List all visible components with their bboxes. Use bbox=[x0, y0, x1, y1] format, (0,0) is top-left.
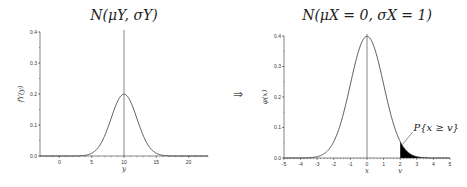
y-tick-label: 0.2 bbox=[274, 94, 281, 100]
y-axis-label: φ(x) bbox=[261, 90, 269, 105]
x-tick-label: 15 bbox=[154, 159, 160, 165]
x-tick-label: -2 bbox=[332, 161, 337, 167]
y-tick-label: 0.4 bbox=[30, 29, 37, 35]
x-tick-label: 5 bbox=[90, 159, 93, 165]
y-tick-label: 0.1 bbox=[274, 124, 281, 130]
y-axis-label: fY(y) bbox=[17, 85, 25, 103]
chart-title: N(μY, σY) bbox=[89, 7, 157, 23]
x-axis-label: x bbox=[365, 167, 369, 175]
y-tick-label: 0.3 bbox=[30, 60, 37, 66]
x-tick-label: 1 bbox=[382, 161, 385, 167]
y-tick-label: 0.2 bbox=[30, 91, 37, 97]
v-label: v bbox=[398, 167, 402, 175]
y-tick-label: 0.0 bbox=[30, 153, 37, 159]
y-tick-label: 0.0 bbox=[274, 155, 281, 161]
x-tick-label: 5 bbox=[449, 161, 452, 167]
y-tick-label: 0.4 bbox=[274, 33, 281, 39]
y-tick-label: 0.1 bbox=[30, 122, 37, 128]
figure: 0.00.10.20.30.405101520yfY(y)N(μY, σY) 0… bbox=[0, 0, 467, 187]
tail-probability-annotation: P{x ≥ v} bbox=[412, 122, 458, 133]
x-tick-label: 20 bbox=[186, 159, 192, 165]
shaded-tail bbox=[400, 142, 450, 158]
chart-right: 0.00.10.20.30.4-5-4-3-2-1012345xφ(x)N(μX… bbox=[261, 7, 459, 175]
annotation-pointer bbox=[403, 132, 413, 144]
x-tick-label: 4 bbox=[432, 161, 435, 167]
x-tick-label: 0 bbox=[58, 159, 61, 165]
y-tick-label: 0.3 bbox=[274, 63, 281, 69]
x-tick-label: -3 bbox=[315, 161, 320, 167]
x-tick-label: -5 bbox=[282, 161, 287, 167]
implies-arrow: ⇒ bbox=[233, 87, 243, 101]
x-tick-label: -4 bbox=[298, 161, 303, 167]
x-tick-label: 3 bbox=[415, 161, 418, 167]
chart-title: N(μX = 0, σX = 1) bbox=[301, 7, 432, 23]
x-axis-label: y bbox=[121, 165, 127, 173]
x-tick-label: -1 bbox=[348, 161, 353, 167]
chart-left: 0.00.10.20.30.405101520yfY(y)N(μY, σY) bbox=[17, 7, 208, 173]
